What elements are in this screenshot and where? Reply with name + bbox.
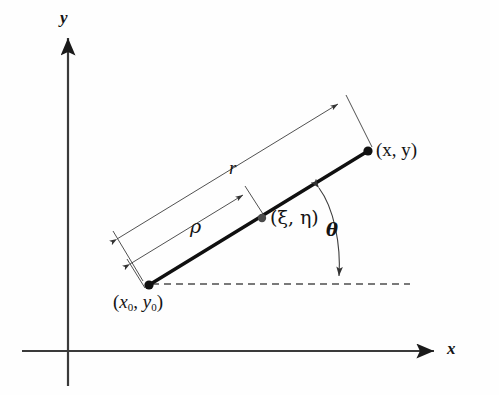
start-label-y: y <box>143 291 151 312</box>
start-label-x: x <box>119 291 127 312</box>
start-label-comma: , <box>133 291 143 312</box>
diagram-svg <box>0 0 499 395</box>
intermediate-point-marker <box>258 214 266 222</box>
rho-dimension-line <box>130 195 243 264</box>
x-axis-label: x <box>447 340 456 357</box>
rho-extension-line-end <box>245 186 263 214</box>
start-point-label: (x0, y0) <box>113 292 163 311</box>
start-label-y-subscript: 0 <box>151 301 157 313</box>
theta-angle-label: θ <box>326 221 338 239</box>
r-measure-label: r <box>229 158 236 177</box>
figure-canvas: y x r ρ θ (x, y) (ξ, η) (x0, y0) <box>0 0 499 395</box>
start-label-x-subscript: 0 <box>128 301 134 313</box>
r-extension-line-end <box>346 95 372 147</box>
intermediate-point-label: (ξ, η) <box>270 208 319 227</box>
rho-measure-label: ρ <box>190 217 201 236</box>
rho-extension-line-start <box>127 259 145 288</box>
start-point-marker <box>144 280 153 289</box>
y-axis-label: y <box>60 9 68 26</box>
end-point-label: (x, y) <box>376 140 417 159</box>
end-point-marker <box>363 146 372 155</box>
start-label-close-paren: ) <box>157 291 163 312</box>
